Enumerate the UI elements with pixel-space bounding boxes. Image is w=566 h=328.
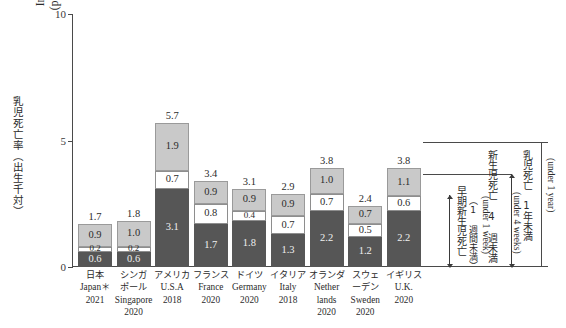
segment-value-label: 1.8 <box>243 238 256 249</box>
segment-value-label: 2.2 <box>320 233 333 244</box>
segment-neonatal[interactable]: 0.5 <box>348 224 382 237</box>
segment-value-label: 3.1 <box>166 222 179 233</box>
segment-neonatal[interactable]: 0.8 <box>194 204 228 224</box>
segment-value-label: 0.9 <box>204 187 217 198</box>
segment-value-label: 0.7 <box>281 220 294 231</box>
segment-early-neonatal[interactable]: 1.8 <box>232 221 266 267</box>
segment-value-label: 0.9 <box>243 194 256 205</box>
x-label-year: 2020 <box>110 306 158 318</box>
bracket-early-neonatal <box>449 195 450 267</box>
bar-column[interactable]: 5.71.90.73.1 <box>155 123 189 267</box>
segment-value-label: 1.1 <box>397 177 410 188</box>
segment-early-neonatal[interactable]: 3.1 <box>155 189 189 267</box>
bar-column[interactable]: 3.40.90.81.7 <box>194 181 228 267</box>
bar-column[interactable]: 3.81.10.62.2 <box>387 168 421 267</box>
x-label-year: 2020 <box>341 306 389 318</box>
segment-value-label: 0.6 <box>397 198 410 209</box>
segment-postneonatal[interactable]: 0.9 <box>271 194 305 217</box>
leader-infant-bottom <box>423 266 541 267</box>
segment-early-neonatal[interactable]: 1.3 <box>271 234 305 267</box>
y-tick-label-5: 5 <box>61 135 67 147</box>
annotation-infant-en: (under 1 year) <box>545 158 557 212</box>
segment-value-label: 1.0 <box>127 228 140 239</box>
segment-value-label: 0.5 <box>359 225 372 236</box>
y-axis-title-line1: Infant mortality rate <box>34 0 46 6</box>
annotation-neonatal-en: (under 4 weeks) <box>511 192 523 254</box>
bar-total-label: 5.7 <box>155 110 189 121</box>
bar-column[interactable]: 1.70.90.20.6 <box>78 224 112 267</box>
segment-value-label: 0.9 <box>281 199 294 210</box>
segment-value-label: 1.0 <box>320 175 333 186</box>
segment-early-neonatal[interactable]: 1.2 <box>348 237 382 267</box>
x-label-year: 2020 <box>380 294 428 306</box>
segment-postneonatal[interactable]: 1.9 <box>155 123 189 171</box>
segment-neonatal[interactable]: 0.4 <box>232 211 266 221</box>
segment-neonatal[interactable]: 0.7 <box>310 194 344 212</box>
segment-value-label: 0.6 <box>127 254 140 265</box>
segment-postneonatal[interactable]: 0.9 <box>232 189 266 212</box>
annotation-early-neonatal-jp2: （1 週間未満） <box>467 196 479 270</box>
y-tick-label-10: 10 <box>55 8 66 20</box>
bar-column[interactable]: 2.40.70.51.2 <box>348 206 382 267</box>
leader-infant-top <box>423 142 541 143</box>
bar-column[interactable]: 3.81.00.72.2 <box>310 168 344 267</box>
segment-early-neonatal[interactable]: 2.2 <box>310 211 344 267</box>
bar-total-label: 3.4 <box>194 168 228 179</box>
x-label-jp-line1: イギリス <box>380 269 428 281</box>
segment-postneonatal[interactable]: 0.9 <box>194 181 228 204</box>
bar-column[interactable]: 2.90.90.71.3 <box>271 194 305 267</box>
bar-column[interactable]: 1.81.00.20.6 <box>117 221 151 267</box>
segment-neonatal[interactable]: 0.6 <box>387 196 421 211</box>
annotation-brackets: 乳児死亡 1年未満 (under 1 year) 新生児死亡 4 週未満 (un… <box>423 0 566 328</box>
segment-value-label: 0.8 <box>204 208 217 219</box>
bar-total-label: 3.8 <box>310 155 344 166</box>
x-label-en: U.K. <box>380 281 428 293</box>
segment-postneonatal[interactable]: 1.0 <box>310 168 344 193</box>
bar-total-label: 1.8 <box>117 208 151 219</box>
segment-neonatal[interactable]: 0.7 <box>155 171 189 189</box>
annotation-early-neonatal-en: (under 1 week) <box>480 196 492 254</box>
leader-neonatal-top <box>423 174 511 175</box>
bar-total-label: 2.9 <box>271 181 305 192</box>
segment-value-label: 1.2 <box>359 246 372 257</box>
segment-early-neonatal[interactable]: 0.6 <box>117 252 151 267</box>
bar-total-label: 1.7 <box>78 211 112 222</box>
segment-value-label: 0.9 <box>88 230 101 241</box>
segment-postneonatal[interactable]: 1.1 <box>387 168 421 196</box>
annotation-early-neonatal-jp: 早期新生児死亡 <box>454 186 466 256</box>
segment-value-label: 0.6 <box>88 254 101 265</box>
y-axis-title-japanese: 乳児死亡率（出生千対） <box>8 96 22 217</box>
bar-total-label: 2.4 <box>348 193 382 204</box>
segment-neonatal[interactable]: 0.7 <box>271 216 305 234</box>
segment-early-neonatal[interactable]: 1.7 <box>194 224 228 267</box>
chart-root: 乳児死亡率（出生千対） Infant mortality rate (per 1… <box>0 0 566 328</box>
segment-value-label: 0.4 <box>244 211 255 220</box>
segment-postneonatal[interactable]: 0.7 <box>348 206 382 224</box>
bracket-infant <box>541 142 542 267</box>
x-axis-label: イギリスU.K.2020 <box>380 269 428 306</box>
segment-value-label: 1.3 <box>281 245 294 256</box>
bar-column[interactable]: 3.10.90.41.8 <box>232 189 266 267</box>
y-tick-label-0: 0 <box>61 261 67 273</box>
bar-series-container: 1.70.90.20.61.81.00.20.65.71.90.73.13.40… <box>72 14 423 267</box>
segment-value-label: 1.9 <box>166 141 179 152</box>
segment-value-label: 0.7 <box>166 174 179 185</box>
segment-value-label: 0.7 <box>320 197 333 208</box>
y-tick-mark-0 <box>68 267 73 268</box>
segment-value-label: 0.7 <box>359 209 372 220</box>
segment-early-neonatal[interactable]: 0.6 <box>78 252 112 267</box>
bar-total-label: 3.8 <box>387 155 421 166</box>
bar-total-label: 3.1 <box>232 176 266 187</box>
segment-value-label: 2.2 <box>397 233 410 244</box>
segment-early-neonatal[interactable]: 2.2 <box>387 211 421 267</box>
x-axis-labels: 日本Japan＊2021シンガポールSingapore2020アメリカU.S.A… <box>72 269 423 328</box>
segment-value-label: 1.7 <box>204 240 217 251</box>
